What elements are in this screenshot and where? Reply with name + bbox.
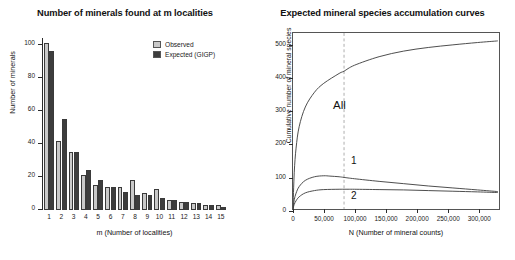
bar-group (69, 38, 79, 210)
x-tick-label: 4 (80, 213, 92, 220)
curve-annotation-1: 1 (351, 155, 357, 166)
curve-2 (293, 189, 498, 209)
x-tick-label: 15 (215, 213, 227, 220)
y-tick-label: 500 (275, 40, 286, 47)
bar-observed (130, 180, 135, 210)
bar-observed (69, 152, 74, 210)
bar-group (167, 38, 177, 210)
x-tick-label: 1 (43, 213, 55, 220)
legend-item-observed: Observed (153, 41, 215, 48)
bar-observed (81, 175, 86, 210)
bar-group (142, 38, 152, 210)
x-tick (293, 209, 294, 213)
bar-expected (111, 187, 116, 210)
y-tick: 100 (289, 178, 293, 179)
bar-expected (160, 198, 165, 210)
legend-item-expected: Expected (GIGP) (153, 51, 215, 58)
bar-expected (135, 195, 140, 210)
bar-expected (172, 200, 177, 210)
bar-group (191, 38, 201, 210)
x-tick-label: 2 (55, 213, 67, 220)
y-tick-label: 0 (31, 204, 35, 211)
y-tick-label: 100 (24, 39, 35, 46)
y-tick: 60 (38, 110, 42, 111)
curve-all (293, 41, 498, 209)
bar-group (203, 38, 213, 210)
legend-label-expected: Expected (GIGP) (165, 51, 215, 58)
x-tick (417, 209, 418, 213)
bar-expected (123, 192, 128, 210)
y-tick-label: 60 (28, 105, 35, 112)
legend-label-observed: Observed (165, 41, 194, 48)
bar-observed (93, 185, 98, 210)
y-tick: 0 (38, 209, 42, 210)
bar-observed (44, 43, 49, 210)
bar-group (56, 38, 66, 210)
y-tick-label: 80 (28, 72, 35, 79)
x-tick (479, 209, 480, 213)
x-tick-label: 5 (92, 213, 104, 220)
x-tick-label: 300,000 (459, 215, 499, 222)
bar-group (105, 38, 115, 210)
figure-container: Number of minerals found at m localities… (0, 0, 515, 260)
y-tick: 200 (289, 144, 293, 145)
bar-expected (74, 152, 79, 210)
x-tick-label: 11 (166, 213, 178, 220)
y-tick-label: 200 (275, 139, 286, 146)
bar-observed (154, 189, 159, 211)
bar-group (118, 38, 128, 210)
y-tick: 80 (38, 77, 42, 78)
bar-chart-y-axis-label: Number of minerals (8, 33, 17, 133)
bar-observed (118, 187, 123, 210)
bar-expected (209, 205, 214, 210)
curve-annotation-all: All (333, 99, 346, 111)
bar-observed (56, 141, 61, 210)
x-tick-label: 6 (104, 213, 116, 220)
bar-group (81, 38, 91, 210)
bar-observed (216, 205, 221, 210)
line-chart-x-axis-label: N (Number of mineral counts) (292, 228, 500, 237)
bar-observed (167, 200, 172, 210)
bar-group (130, 38, 140, 210)
y-tick: 40 (38, 143, 42, 144)
y-tick-label: 40 (28, 138, 35, 145)
x-tick (324, 209, 325, 213)
legend-swatch-observed-icon (153, 41, 161, 48)
y-tick-label: 400 (275, 73, 286, 80)
bar-expected (49, 51, 54, 210)
bar-chart-panel: Number of minerals found at m localities… (0, 0, 250, 260)
y-tick: 100 (38, 44, 42, 45)
bar-observed (105, 187, 110, 210)
bar-expected (197, 203, 202, 210)
bar-expected (86, 170, 91, 210)
bar-observed (191, 203, 196, 210)
bar-chart-legend: Observed Expected (GIGP) (153, 41, 215, 61)
bar-group (216, 38, 226, 210)
x-tick-label: 12 (178, 213, 190, 220)
bar-group (93, 38, 103, 210)
bar-group (44, 38, 54, 210)
bar-chart-title: Number of minerals found at m localities (0, 8, 250, 18)
bar-expected (184, 202, 189, 210)
x-tick-label: 14 (202, 213, 214, 220)
x-tick (386, 209, 387, 213)
bar-group (179, 38, 189, 210)
bar-observed (203, 205, 208, 210)
bar-observed (179, 202, 184, 210)
x-tick (355, 209, 356, 213)
bar-observed (142, 193, 147, 210)
bar-expected (98, 180, 103, 210)
x-tick-label: 7 (117, 213, 129, 220)
y-tick: 400 (289, 78, 293, 79)
y-tick: 300 (289, 111, 293, 112)
bar-group (154, 38, 164, 210)
bar-chart-x-axis-label: m (Number of localities) (42, 228, 227, 237)
x-tick-label: 8 (129, 213, 141, 220)
line-chart-plot-area: 0100200300400500 050,000100,000150,00020… (292, 32, 500, 210)
x-tick (448, 209, 449, 213)
curve-annotation-2: 2 (351, 190, 357, 201)
x-tick-label: 13 (190, 213, 202, 220)
y-tick-label: 300 (275, 106, 286, 113)
x-tick-label: 9 (141, 213, 153, 220)
bar-expected (148, 195, 153, 210)
